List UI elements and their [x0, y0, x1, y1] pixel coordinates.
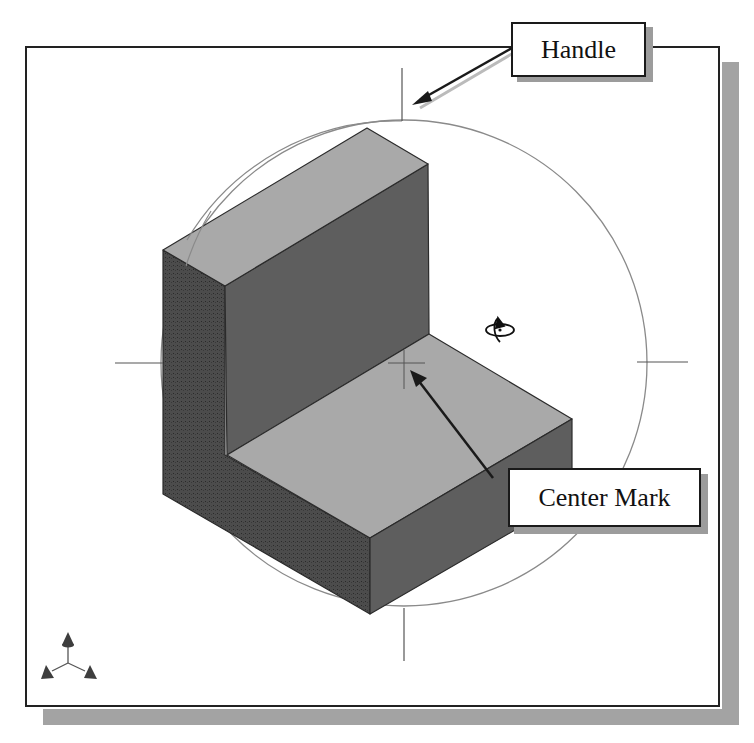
- center-mark-callout-label: Center Mark: [538, 483, 670, 513]
- handle-callout-arrow: [412, 48, 515, 108]
- handle-callout: Handle: [511, 22, 646, 77]
- model-scene[interactable]: [0, 0, 754, 743]
- center-mark-callout: Center Mark: [508, 468, 701, 527]
- axis-triad-icon[interactable]: [41, 632, 97, 679]
- rotate-cursor-icon: [486, 318, 514, 342]
- l-bracket-model[interactable]: [163, 128, 572, 614]
- handle-callout-label: Handle: [541, 35, 616, 65]
